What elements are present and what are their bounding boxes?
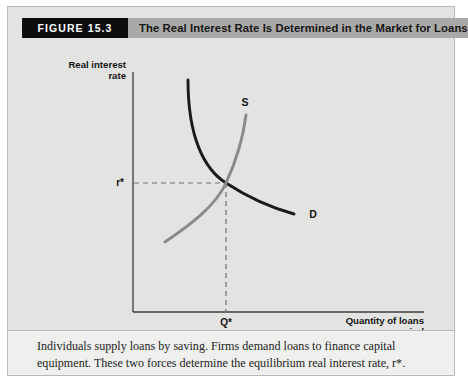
y-tick-label-equilibrium-rate: r* [116, 177, 124, 188]
demand-curve-label: D [309, 208, 317, 220]
figure-caption-strip: Individuals supply loans by saving. Firm… [8, 330, 454, 375]
supply-curve-label: S [241, 96, 248, 108]
figure-title: The Real Interest Rate Is Determined in … [139, 22, 468, 34]
figure-caption: Individuals supply loans by saving. Firm… [37, 338, 433, 371]
caption-line-2: These two forces determine the equilibri… [94, 356, 405, 370]
figure-panel: FIGURE 15.3 The Real Interest Rate Is De… [7, 6, 455, 376]
x-tick-label-equilibrium-quantity: Q* [220, 317, 232, 328]
y-axis-label-line-1: Real interest [68, 59, 126, 70]
chart-area: S D r* Q* Real interest rate Quantity of… [8, 45, 454, 333]
y-axis-label-line-2: rate [108, 70, 126, 81]
figure-header: FIGURE 15.3 The Real Interest Rate Is De… [22, 18, 443, 38]
figure-title-bar: The Real Interest Rate Is Determined in … [128, 18, 468, 38]
supply-demand-chart: S D r* Q* Real interest rate Quantity of… [8, 45, 454, 333]
figure-number-badge: FIGURE 15.3 [22, 18, 128, 38]
x-axis-label-line-1: Quantity of loans [346, 315, 424, 326]
supply-curve [165, 115, 246, 242]
